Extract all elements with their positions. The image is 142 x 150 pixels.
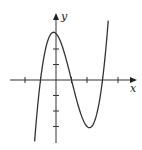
y-axis-arrow-icon bbox=[53, 13, 59, 20]
cubic-curve bbox=[35, 21, 109, 142]
x-axis-label: x bbox=[130, 82, 137, 95]
cubic-graph: y x bbox=[0, 0, 142, 150]
y-axis-label: y bbox=[60, 10, 68, 23]
